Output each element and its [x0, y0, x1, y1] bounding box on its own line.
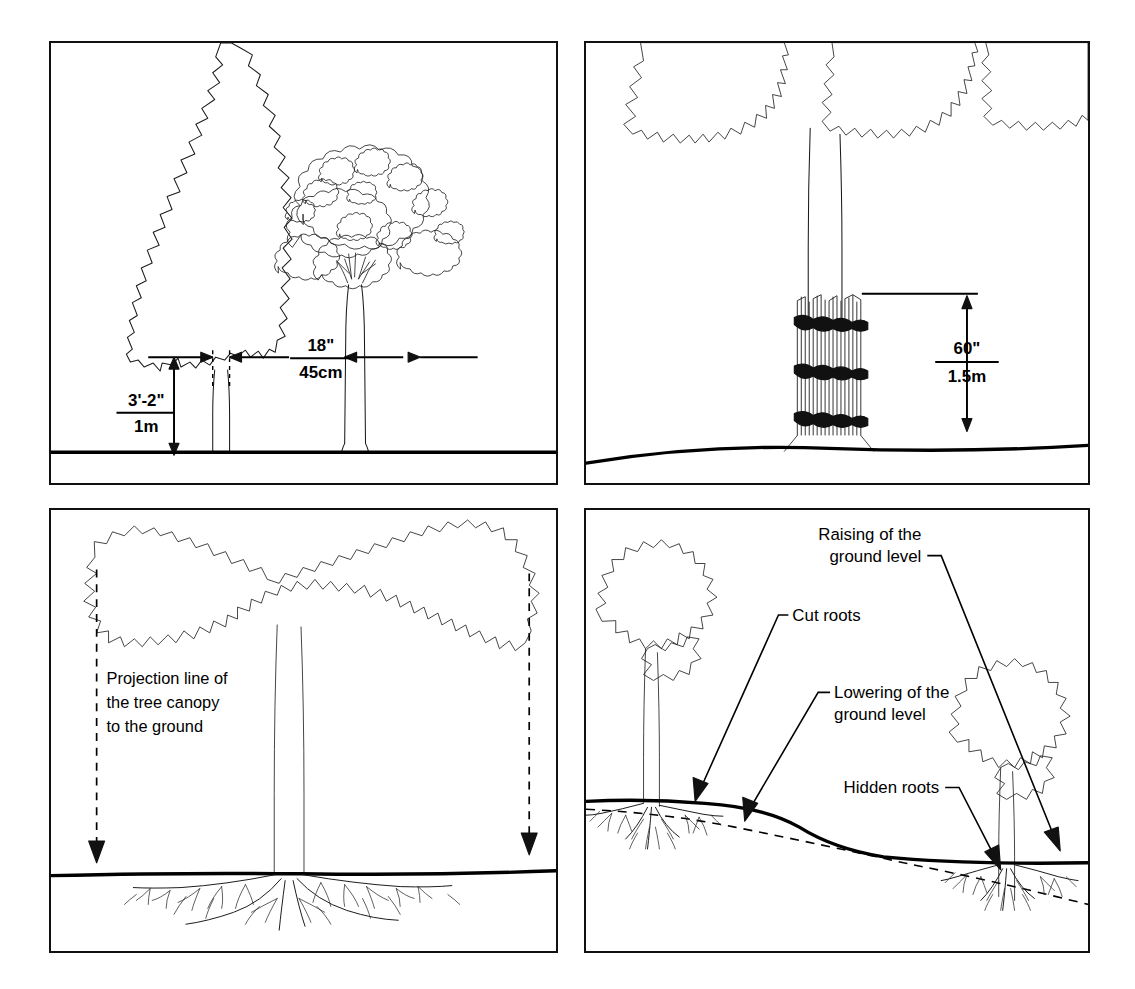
crown-clearance-dimension: 18" 45cm	[148, 336, 477, 382]
panel-3-drawing: Projection line of the tree canopy to th…	[51, 510, 556, 951]
protection-height-metric: 1.5m	[948, 367, 986, 386]
protection-height-imperial: 60"	[954, 339, 981, 358]
left-tree-crown-icon	[596, 540, 717, 649]
raising-ground-level-line-2: ground level	[829, 547, 921, 566]
panel-canopy-projection-root-zone: Projection line of the tree canopy to th…	[49, 508, 558, 953]
lowering-ground-level-line-1: Lowering of the	[834, 683, 949, 702]
left-tree-trunk-icon	[644, 649, 660, 807]
cut-roots-label: Cut roots	[792, 606, 860, 625]
right-tree-roots-icon	[941, 865, 1078, 911]
panel-2-drawing: 60" 1.5m	[586, 43, 1088, 483]
columnar-conifer-crown-icon	[126, 43, 292, 371]
crown-clearance-imperial: 18"	[307, 336, 334, 355]
note-line-2: the tree canopy	[107, 693, 221, 711]
trunk-icon	[274, 625, 304, 875]
protection-height-dimension: 60" 1.5m	[862, 294, 999, 432]
trunk-clear-height-metric: 1m	[134, 417, 158, 436]
tree-canopy-outline-icon	[84, 520, 539, 651]
lowering-ground-level-line-2: ground level	[834, 705, 926, 724]
sloped-ground-line	[586, 445, 1088, 463]
trunk-clear-height-dimension: 3'-2" 1m	[116, 357, 179, 455]
hidden-roots-label: Hidden roots	[844, 778, 940, 797]
callout-lowering-ground-level: Lowering of the ground level	[743, 683, 950, 821]
columnar-conifer-trunk-icon	[213, 370, 230, 451]
new-ground-profile-solid	[586, 800, 1088, 863]
overhead-canopy-icon	[624, 43, 1088, 143]
panel-trunk-slat-protection: 60" 1.5m	[584, 41, 1090, 485]
raising-ground-level-line-1: Raising of the	[818, 525, 921, 544]
note-line-1: Projection line of	[107, 669, 228, 687]
panel-4-drawing: Raising of the ground level Cut roots Lo…	[586, 510, 1088, 951]
deciduous-tree-trunk-icon	[345, 285, 366, 444]
right-tree-crown-icon	[949, 659, 1070, 768]
panel-tree-spacing-clearance: 18" 45cm 3'-2" 1m	[49, 41, 558, 485]
deciduous-tree-foliage-icon	[274, 145, 464, 289]
projection-arrow-left	[89, 841, 105, 863]
panel-ground-level-change: Raising of the ground level Cut roots Lo…	[584, 508, 1090, 953]
canopy-projection-note: Projection line of the tree canopy to th…	[107, 669, 228, 735]
panel-1-drawing: 18" 45cm 3'-2" 1m	[51, 43, 556, 483]
note-line-3: to the ground	[107, 717, 203, 735]
deciduous-tree-branches-icon	[337, 253, 376, 283]
original-ground-profile-dashed	[586, 809, 1088, 904]
projection-arrow-right	[521, 833, 537, 855]
crown-clearance-metric: 45cm	[299, 363, 342, 382]
tree-trunk-icon	[808, 128, 842, 322]
callout-hidden-roots: Hidden roots	[844, 778, 1001, 869]
root-plate-icon	[124, 875, 459, 930]
deciduous-tree-trunk-flare-icon	[342, 443, 369, 451]
trunk-clear-height-imperial: 3'-2"	[128, 391, 164, 410]
diagram-sheet: 18" 45cm 3'-2" 1m	[0, 0, 1135, 989]
callout-cut-roots: Cut roots	[693, 606, 861, 801]
